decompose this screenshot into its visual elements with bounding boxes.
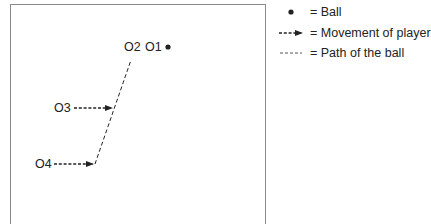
- player-o3-label: O3: [54, 101, 71, 115]
- player-o1-label: O1: [145, 40, 162, 54]
- legend-movement-label: = Movement of player: [310, 26, 431, 40]
- legend-ball-icon: [288, 9, 293, 14]
- legend-ball-label: = Ball: [310, 5, 342, 19]
- ball-icon: [165, 44, 170, 49]
- ball-path-line: [95, 60, 131, 164]
- player-o2-label: O2: [124, 40, 141, 54]
- legend-path-label: = Path of the ball: [310, 46, 404, 60]
- player-o4-label: O4: [35, 157, 52, 171]
